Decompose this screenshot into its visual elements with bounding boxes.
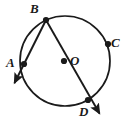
geometry-figure: B A C O D: [0, 0, 124, 122]
point-d-dot: [85, 97, 91, 103]
label-point-a: A: [6, 56, 15, 69]
label-point-o: O: [70, 54, 79, 67]
label-point-c: C: [111, 36, 120, 49]
circle-diagram-canvas: [0, 0, 124, 122]
label-point-d: D: [79, 105, 88, 118]
point-o-center-dot: [61, 58, 67, 64]
ray-b-a: [15, 20, 47, 83]
point-a-dot: [21, 61, 27, 67]
point-b-dot: [43, 17, 49, 23]
label-point-b: B: [30, 2, 39, 15]
